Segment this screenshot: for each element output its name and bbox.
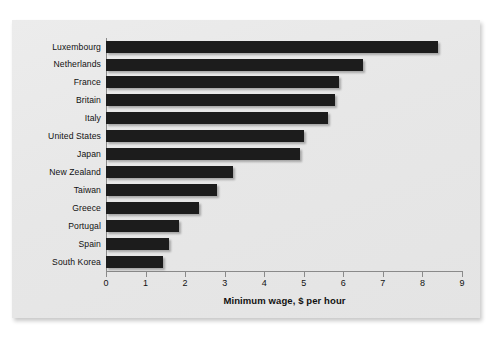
category-label: Italy	[6, 113, 101, 123]
value-tick-label: 9	[452, 278, 472, 288]
bar-row	[106, 253, 462, 271]
category-label: Portugal	[6, 221, 101, 231]
bar-row	[106, 199, 462, 217]
value-tick	[106, 272, 107, 277]
bar-row	[106, 181, 462, 199]
value-tick	[304, 272, 305, 277]
category-label: South Korea	[6, 257, 101, 267]
bar	[106, 94, 335, 106]
bar-row	[106, 38, 462, 56]
value-tick-label: 4	[254, 278, 274, 288]
value-tick-label: 0	[96, 278, 116, 288]
chart-figure: LuxembourgNetherlandsFranceBritainItalyU…	[0, 0, 499, 339]
bar-row	[106, 128, 462, 146]
category-tick-labels: LuxembourgNetherlandsFranceBritainItalyU…	[5, 38, 101, 271]
value-tick	[422, 272, 423, 277]
value-tick-label: 6	[333, 278, 353, 288]
bar-row	[106, 163, 462, 181]
value-tick	[225, 272, 226, 277]
bar-row	[106, 146, 462, 164]
bar	[106, 130, 304, 142]
category-label: Japan	[6, 149, 101, 159]
category-label: New Zealand	[6, 167, 101, 177]
bar-row	[106, 110, 462, 128]
value-tick-label: 1	[136, 278, 156, 288]
value-tick-label: 3	[215, 278, 235, 288]
value-tick	[383, 272, 384, 277]
category-label: Luxembourg	[6, 42, 101, 52]
value-tick	[185, 272, 186, 277]
value-tick-label: 2	[175, 278, 195, 288]
category-label: Britain	[6, 95, 101, 105]
x-axis-title: Minimum wage, $ per hour	[106, 295, 463, 306]
value-tick	[264, 272, 265, 277]
bar	[106, 41, 438, 53]
category-label: France	[6, 77, 101, 87]
bar	[106, 202, 199, 214]
category-label: United States	[6, 131, 101, 141]
bar-row	[106, 74, 462, 92]
bar	[106, 238, 169, 250]
bar	[106, 59, 363, 71]
value-tick-label: 5	[294, 278, 314, 288]
bar	[106, 184, 217, 196]
bar-row	[106, 92, 462, 110]
value-tick-label: 8	[412, 278, 432, 288]
value-tick	[462, 272, 463, 277]
plot-area	[106, 38, 462, 271]
category-label: Spain	[6, 239, 101, 249]
value-tick-marks: 0123456789	[106, 272, 463, 294]
category-label: Taiwan	[6, 185, 101, 195]
bar	[106, 220, 179, 232]
bar-row	[106, 217, 462, 235]
value-tick	[343, 272, 344, 277]
bar	[106, 166, 233, 178]
category-label: Netherlands	[6, 59, 101, 69]
category-label: Greece	[6, 203, 101, 213]
bar	[106, 112, 328, 124]
bar	[106, 76, 339, 88]
value-tick	[146, 272, 147, 277]
bar	[106, 256, 163, 268]
bar-row	[106, 235, 462, 253]
value-tick-label: 7	[373, 278, 393, 288]
bar-row	[106, 56, 462, 74]
bar	[106, 148, 300, 160]
